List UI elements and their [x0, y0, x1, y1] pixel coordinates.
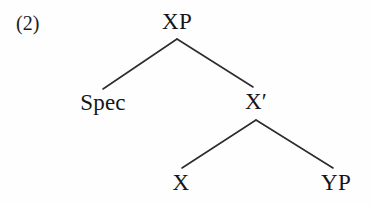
- x-bar-tree-figure: (2) XP Spec X′ X YP: [0, 0, 372, 205]
- node-x-head: X: [173, 171, 190, 194]
- node-spec: Spec: [80, 91, 126, 114]
- node-x-bar: X′: [245, 90, 267, 113]
- node-xp: XP: [162, 10, 192, 33]
- branch-xp-to-xbar: [177, 39, 253, 87]
- example-number-label: (2): [16, 13, 39, 33]
- branch-xbar-to-yp: [256, 120, 333, 168]
- branch-xbar-to-x: [182, 120, 256, 168]
- branch-xp-to-spec: [103, 39, 177, 89]
- node-yp-complement: YP: [321, 171, 351, 194]
